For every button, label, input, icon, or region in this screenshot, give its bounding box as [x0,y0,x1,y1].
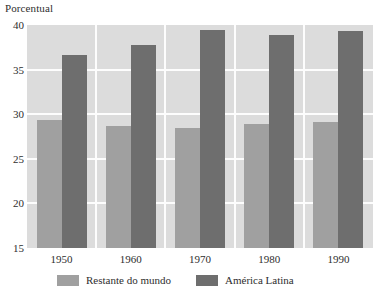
bar [175,128,200,248]
bar [313,122,338,248]
chart-legend: Restante do mundoAmérica Latina [0,272,380,290]
bar-chart: Porcentual 403530252015 1950196019701980… [0,0,380,295]
category-separator [234,25,236,248]
category-separator [303,25,305,248]
y-tick-label: 25 [2,154,24,165]
x-tick-label: 1950 [27,253,96,265]
legend-swatch [57,275,79,286]
bar [131,45,156,248]
y-tick-label: 15 [2,243,24,254]
legend-swatch [196,275,218,286]
category-separator [95,25,97,248]
bar [269,35,294,248]
y-tick-label: 20 [2,198,24,209]
plot-area [27,25,373,248]
legend-label: América Latina [225,274,294,286]
category-separator [164,25,166,248]
legend-entry[interactable]: Restante do mundo [57,274,171,286]
bar [244,124,269,248]
y-axis-title: Porcentual [5,2,53,14]
y-tick-label: 35 [2,65,24,76]
bar [200,30,225,248]
x-tick-label: 1960 [96,253,165,265]
x-tick-label: 1970 [165,253,234,265]
x-tick-label: 1980 [235,253,304,265]
y-tick-label: 40 [2,20,24,31]
bar [62,55,87,248]
y-tick-label: 30 [2,109,24,120]
bar [338,31,363,248]
legend-entry[interactable]: América Latina [196,274,294,286]
legend-label: Restante do mundo [86,274,171,286]
bar [37,120,62,248]
x-tick-label: 1990 [304,253,373,265]
bar [106,126,131,248]
